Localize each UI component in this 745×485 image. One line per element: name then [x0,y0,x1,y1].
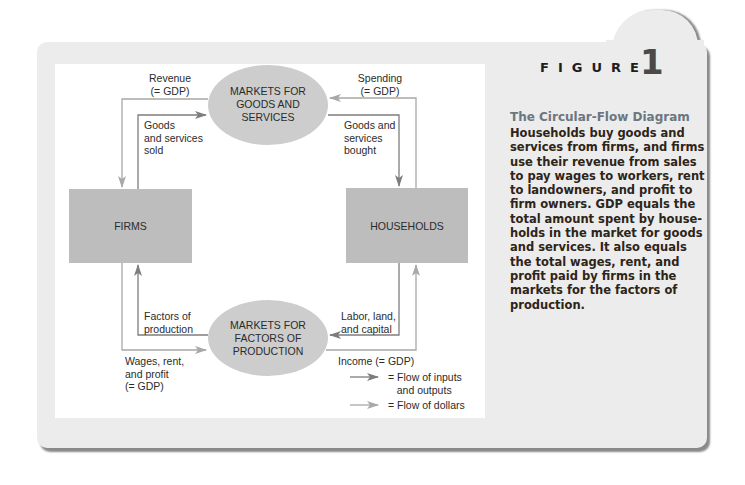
figure-label: FIGURE [540,60,648,75]
wages-label: Wages, rent, and profit (= GDP) [125,355,184,393]
caption-line: total amount spent by house- [510,212,705,226]
factors-label: Factors of production [144,310,193,335]
goods-sold-label: Goods and services sold [144,119,203,157]
caption-line: holds in the market for goods [510,226,705,240]
caption-line: firm owners. GDP equals the [510,197,705,211]
legend-inputs-label: = Flow of inputs and outputs [388,371,462,396]
caption-line: markets for the factors of [510,283,705,297]
spending-label: Spending (= GDP) [350,72,410,97]
caption-line: profit paid by firms in the [510,269,705,283]
caption-line: and services. It also equals [510,240,705,254]
income-label: Income (= GDP) [338,355,414,368]
caption-line: services from firms, and firms [510,140,705,154]
caption-line: Households buy goods and [510,126,705,140]
factor-market-label: MARKETS FOR FACTORS OF PRODUCTION [218,319,318,358]
wages-flow [122,263,206,350]
figure-number: 1 [640,42,664,82]
goods-bought-label: Goods and services bought [344,119,395,157]
figure-title: The Circular-Flow Diagram [510,110,690,124]
caption-line: to pay wages to workers, rent [510,169,705,183]
firms-label: FIRMS [69,220,192,233]
caption-line: use their revenue from sales [510,155,705,169]
labor-label: Labor, land, and capital [341,310,396,335]
households-label: HOUSEHOLDS [346,220,468,233]
goods-market-label: MARKETS FOR GOODS AND SERVICES [218,85,318,124]
caption-line: the total wages, rent, and [510,255,705,269]
revenue-label: Revenue (= GDP) [140,72,200,97]
caption-line: to landowners, and profit to [510,183,705,197]
figure-caption: Households buy goods and services from f… [510,126,705,312]
caption-line: production. [510,298,705,312]
income-flow [326,265,416,350]
legend-dollars-label: = Flow of dollars [388,399,465,412]
